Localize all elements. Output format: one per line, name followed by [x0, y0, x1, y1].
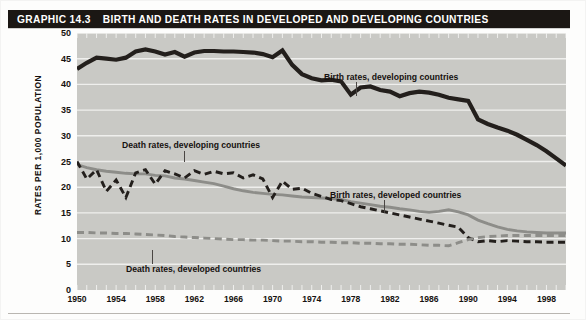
x-tick-label: 1994 — [498, 294, 517, 304]
x-tick-label: 1950 — [67, 294, 86, 304]
y-tick-label: 45 — [61, 54, 71, 64]
y-tick-label: 35 — [61, 105, 71, 115]
x-tick-label: 1958 — [146, 294, 165, 304]
figure-title-bar: GRAPHIC 14.3 BIRTH AND DEATH RATES IN DE… — [8, 10, 570, 28]
page-title: BIRTH AND DEATH RATES IN DEVELOPED AND D… — [91, 14, 489, 25]
bottom-divider — [8, 313, 570, 314]
annotation-leader-death-developed — [152, 250, 153, 264]
annotation-death-developing: Death rates, developing countries — [122, 140, 260, 150]
annotation-leader-birth-developing — [356, 82, 357, 96]
y-tick-label: 40 — [61, 79, 71, 89]
x-tick-label: 1986 — [420, 294, 439, 304]
x-tick-label: 1954 — [107, 294, 126, 304]
graphic-number-label: GRAPHIC 14.3 — [8, 14, 91, 25]
y-tick-label: 30 — [61, 131, 71, 141]
x-tick-label: 1978 — [341, 294, 360, 304]
y-axis-tick-labels: 05101520253035404550 — [47, 33, 71, 290]
annotation-birth-developed: Birth rates, developed countries — [330, 190, 461, 200]
y-tick-label: 10 — [61, 234, 71, 244]
x-tick-label: 1970 — [263, 294, 282, 304]
y-tick-label: 25 — [61, 157, 71, 167]
annotation-death-developed: Death rates, developed countries — [126, 264, 261, 274]
plot-area — [77, 33, 566, 290]
x-axis-tick-labels: 1950195419581962196619701974197819821986… — [77, 294, 566, 310]
y-tick-label: 50 — [61, 28, 71, 38]
y-tick-label: 20 — [61, 182, 71, 192]
figure-graphic-14-3: GRAPHIC 14.3 BIRTH AND DEATH RATES IN DE… — [0, 0, 586, 320]
x-tick-label: 1990 — [459, 294, 478, 304]
x-tick-label: 1998 — [537, 294, 556, 304]
y-tick-label: 5 — [66, 259, 71, 269]
chart-svg — [77, 33, 566, 290]
series-line-1 — [77, 165, 566, 233]
y-tick-label: 15 — [61, 208, 71, 218]
x-tick-label: 1962 — [185, 294, 204, 304]
annotation-birth-developing: Birth rates, developing countries — [324, 72, 458, 82]
x-tick-label: 1974 — [302, 294, 321, 304]
annotation-leader-birth-developed — [384, 200, 385, 213]
x-tick-label: 1966 — [224, 294, 243, 304]
x-tick-label: 1982 — [380, 294, 399, 304]
annotation-leader-death-developing — [184, 151, 185, 162]
y-axis-title: RATES PER 1,000 POPULATION — [33, 45, 43, 245]
